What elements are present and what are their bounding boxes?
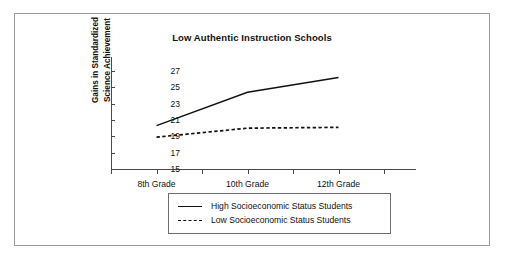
series-line <box>157 127 339 137</box>
legend: High Socioeconomic Status Students Low S… <box>168 193 391 234</box>
legend-item-low-ses[interactable]: Low Socioeconomic Status Students <box>178 213 381 227</box>
legend-label-high-ses: High Socioeconomic Status Students <box>211 201 352 211</box>
dashed-line-icon <box>178 215 202 225</box>
plot-area: 27252321191715 8th Grade10th Grade12th G… <box>98 57 485 182</box>
solid-line-icon <box>178 201 202 211</box>
series-lines <box>98 57 485 182</box>
series-line <box>157 78 339 126</box>
legend-item-high-ses[interactable]: High Socioeconomic Status Students <box>178 199 381 213</box>
figure-frame: Low Authentic Instruction Schools Gains … <box>14 13 490 246</box>
legend-label-low-ses: Low Socioeconomic Status Students <box>211 215 351 225</box>
chart-title: Low Authentic Instruction Schools <box>15 32 489 43</box>
